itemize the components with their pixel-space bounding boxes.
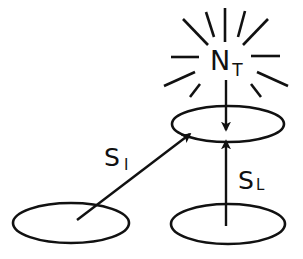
si-label: SI bbox=[104, 143, 128, 174]
top-ellipse bbox=[172, 106, 284, 142]
sl-label-main: S bbox=[238, 166, 254, 195]
diagram-svg: NT SI SL bbox=[0, 0, 303, 259]
nt-label-sub: T bbox=[231, 60, 243, 80]
ray-upper-right bbox=[243, 19, 268, 45]
diagram-canvas: NT SI SL bbox=[0, 0, 303, 259]
ray-upper-left-steep bbox=[206, 12, 214, 37]
ray-upper-right-steep bbox=[238, 11, 245, 37]
ray-upper-left bbox=[183, 19, 208, 45]
sl-label-sub: L bbox=[256, 176, 265, 194]
ray-lower-left-short bbox=[190, 84, 200, 97]
nt-label-main: N bbox=[210, 45, 230, 76]
nt-label: NT bbox=[210, 45, 243, 80]
right-ellipse bbox=[171, 204, 285, 244]
si-label-main: S bbox=[104, 143, 120, 172]
ray-lower-right-short bbox=[251, 84, 261, 97]
ray-lower-left bbox=[164, 72, 195, 86]
left-ellipse bbox=[13, 203, 129, 243]
ray-lower-right bbox=[257, 72, 288, 86]
arrow-si bbox=[77, 134, 190, 220]
si-label-sub: I bbox=[124, 156, 128, 174]
sl-label: SL bbox=[238, 166, 265, 195]
